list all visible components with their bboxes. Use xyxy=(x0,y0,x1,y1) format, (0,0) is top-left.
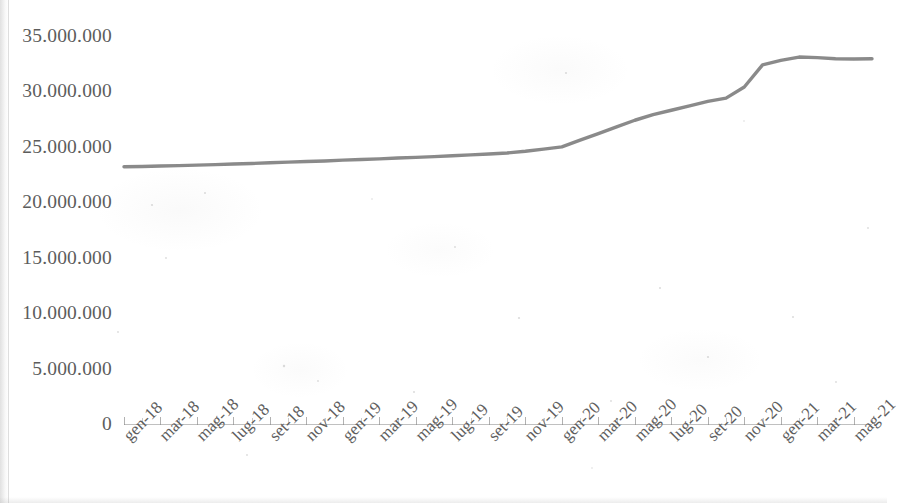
x-axis-tick xyxy=(416,417,417,425)
x-axis-tick-label: gen-21 xyxy=(777,399,822,444)
x-axis-tick-label: nov-19 xyxy=(521,398,567,444)
y-axis-tick-label: 0 xyxy=(102,414,112,434)
x-axis-tick xyxy=(635,417,636,425)
x-axis-tick xyxy=(562,417,563,425)
y-axis-tick-label: 30.000.000 xyxy=(22,81,112,101)
x-axis-tick-label: gen-19 xyxy=(339,399,384,444)
x-axis-tick xyxy=(270,417,271,425)
y-axis-tick-label: 15.000.000 xyxy=(22,248,112,268)
x-axis-tick xyxy=(781,417,782,425)
scan-page-edge-line xyxy=(8,0,9,503)
y-axis-tick-label: 20.000.000 xyxy=(22,192,112,212)
x-axis-tick xyxy=(708,417,709,425)
x-axis-tick xyxy=(854,417,855,425)
x-axis-tick-label: gen-20 xyxy=(558,399,603,444)
x-axis-tick-label: gen-18 xyxy=(120,399,165,444)
x-axis-tick xyxy=(343,417,344,425)
x-axis-tick xyxy=(489,417,490,425)
series-path xyxy=(124,57,872,167)
scan-page-bottom-shading xyxy=(0,497,887,503)
x-axis-tick-label: mag-21 xyxy=(850,395,899,444)
y-axis-tick-label: 5.000.000 xyxy=(32,359,112,379)
y-axis-tick-label: 10.000.000 xyxy=(22,303,112,323)
x-axis-tick-label: nov-20 xyxy=(740,398,786,444)
y-axis-tick-label: 35.000.000 xyxy=(22,26,112,46)
x-axis-tick-label: nov-18 xyxy=(302,398,348,444)
y-axis-tick-label: 25.000.000 xyxy=(22,137,112,157)
